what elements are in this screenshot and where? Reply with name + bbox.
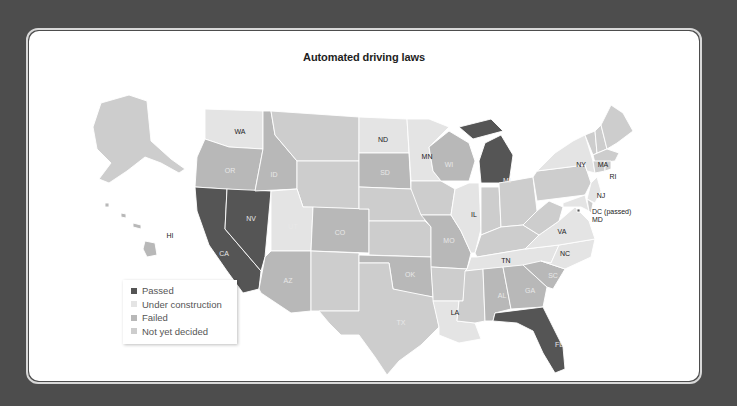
label-va: VA: [558, 228, 567, 235]
legend-item-failed: Failed: [131, 311, 237, 325]
swatch-failed-icon: [131, 315, 137, 321]
label-il: IL: [471, 211, 477, 218]
label-sc: SC: [548, 272, 558, 279]
legend-item-under-construction: Under construction: [131, 298, 237, 312]
state-dc[interactable]: [577, 209, 580, 212]
legend-label: Under construction: [142, 299, 222, 310]
swatch-not-yet-decided-icon: [131, 328, 137, 334]
label-nv: NV: [246, 215, 256, 222]
label-ga: GA: [525, 287, 535, 294]
legend-item-passed: Passed: [131, 284, 237, 298]
legend-item-not-yet-decided: Not yet decided: [131, 325, 237, 339]
label-tx: TX: [397, 319, 406, 326]
label-ut: UT: [288, 223, 298, 230]
label-mi: MI: [503, 177, 511, 184]
state-fl[interactable]: [493, 307, 565, 373]
label-ri: RI: [610, 173, 617, 180]
label-mo: MO: [443, 237, 455, 244]
state-ny[interactable]: [537, 135, 595, 173]
legend-label: Failed: [142, 312, 168, 323]
label-hi: HI: [167, 232, 174, 239]
label-fl: FL: [555, 341, 563, 348]
label-md: MD: [592, 216, 603, 223]
label-nd: ND: [378, 136, 388, 143]
state-nd[interactable]: [359, 117, 409, 153]
label-nj: NJ: [597, 192, 606, 199]
label-dc: DC (passed): [592, 208, 631, 216]
map-panel: Automated driving laws: [29, 31, 699, 381]
state-me[interactable]: [601, 105, 633, 149]
label-tn: TN: [501, 257, 510, 264]
legend-label: Passed: [142, 285, 174, 296]
state-wy[interactable]: [297, 161, 359, 209]
legend-label: Not yet decided: [142, 326, 208, 337]
label-id: ID: [271, 171, 278, 178]
state-hi[interactable]: [105, 203, 157, 257]
label-wi: WI: [445, 161, 454, 168]
state-ar[interactable]: [431, 267, 467, 301]
state-ks[interactable]: [369, 221, 431, 257]
label-la: LA: [451, 309, 460, 316]
label-al: AL: [498, 292, 507, 299]
label-sd: SD: [380, 169, 390, 176]
label-co: CO: [335, 229, 346, 236]
label-az: AZ: [284, 277, 294, 284]
label-ok: OK: [405, 271, 415, 278]
label-mn: MN: [422, 153, 433, 160]
label-ca: CA: [219, 250, 229, 257]
swatch-under-construction-icon: [131, 301, 137, 307]
label-wa: WA: [234, 128, 245, 135]
swatch-passed-icon: [131, 288, 137, 294]
label-ny: NY: [576, 161, 586, 168]
label-ma: MA: [598, 161, 609, 168]
state-ak[interactable]: [93, 95, 185, 183]
map-legend: Passed Under construction Failed Not yet…: [123, 280, 237, 344]
label-nc: NC: [560, 250, 570, 257]
state-nm[interactable]: [311, 251, 359, 311]
label-or: OR: [225, 167, 236, 174]
